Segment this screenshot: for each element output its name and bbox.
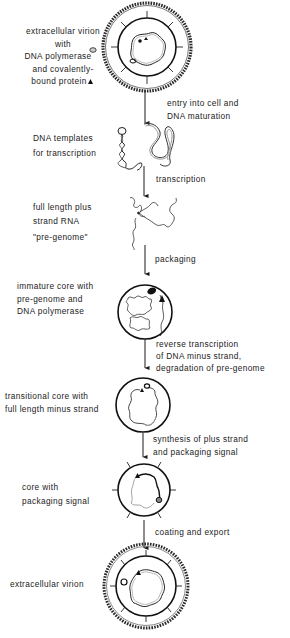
protein-triangle-icon bbox=[159, 295, 165, 302]
step-label-transcription: transcription bbox=[156, 173, 206, 186]
label-line: full length minus strand bbox=[5, 403, 99, 416]
step-label-packaging: packaging bbox=[155, 253, 196, 266]
protein-triangle-icon bbox=[140, 388, 144, 392]
pregenome-rna-illustration bbox=[130, 198, 176, 250]
diagram-artwork bbox=[0, 0, 290, 638]
stage-label-pregenome: full length plus strand RNA "pre-genome" bbox=[33, 201, 92, 245]
label-line: core with bbox=[22, 480, 89, 494]
label-line: packaging bbox=[155, 253, 196, 266]
step-label-reverse-transcription: reverse transcription of DNA minus stran… bbox=[156, 338, 265, 374]
polymerase-blob-icon bbox=[147, 287, 156, 294]
step-label-entry: entry into cell and DNA maturation bbox=[167, 97, 239, 122]
label-line: reverse transcription bbox=[156, 338, 265, 350]
polymerase-blob-icon bbox=[156, 497, 162, 502]
stage-label-dna-templates: DNA templates for transcription bbox=[33, 131, 96, 161]
protein-triangle-icon bbox=[144, 37, 148, 40]
label-line: entry into cell and bbox=[167, 97, 239, 110]
label-line: DNA polymerase bbox=[10, 50, 106, 63]
virion-start-illustration bbox=[103, 3, 191, 91]
label-line: transcription bbox=[156, 173, 206, 186]
label-line: for transcription bbox=[33, 146, 96, 161]
immature-core-illustration bbox=[118, 285, 172, 339]
stage-label-extracellular-virion-end: extracellular virion bbox=[10, 578, 84, 591]
label-line: packaging signal bbox=[22, 494, 89, 508]
stage-label-immature-core: immature core with pre-genome and DNA po… bbox=[17, 280, 93, 318]
label-line: bound protein bbox=[12, 75, 106, 88]
label-line: DNA maturation bbox=[167, 110, 239, 123]
label-line: immature core with bbox=[17, 280, 93, 293]
label-line: strand RNA bbox=[33, 215, 92, 229]
label-line: and packaging signal bbox=[153, 446, 248, 459]
label-line: coating and export bbox=[155, 526, 230, 539]
label-line: extracellular virion bbox=[20, 25, 106, 38]
label-line: of DNA minus strand, bbox=[156, 350, 265, 362]
label-line: DNA templates bbox=[33, 131, 96, 146]
label-line: and covalently- bbox=[20, 63, 106, 76]
label-line: "pre-genome" bbox=[33, 231, 92, 245]
label-line: with bbox=[20, 38, 106, 51]
polymerase-blob-icon bbox=[144, 384, 149, 388]
label-line: extracellular virion bbox=[10, 578, 84, 591]
label-line: synthesis of plus strand bbox=[153, 433, 248, 446]
label-line: transitional core with bbox=[5, 390, 99, 403]
dna-templates-illustration bbox=[118, 123, 174, 170]
virion-end-illustration bbox=[104, 544, 188, 628]
label-line: DNA polymerase bbox=[17, 305, 93, 318]
step-label-coating-export: coating and export bbox=[155, 526, 230, 539]
packaging-core-illustration bbox=[112, 462, 176, 518]
stage-label-transitional-core: transitional core with full length minus… bbox=[5, 390, 99, 415]
step-label-plus-strand-synthesis: synthesis of plus strand and packaging s… bbox=[153, 433, 248, 458]
transitional-core-illustration bbox=[116, 378, 170, 432]
stage-label-packaging-core: core with packaging signal bbox=[22, 480, 89, 508]
label-line: pre-genome and bbox=[17, 293, 93, 306]
label-line: degradation of pre-genome bbox=[156, 362, 265, 374]
stage-label-extracellular-virion-start: extracellular virion with DNA polymerase… bbox=[20, 25, 106, 88]
polymerase-blob-icon bbox=[121, 579, 127, 585]
label-line: full length plus bbox=[33, 201, 92, 215]
